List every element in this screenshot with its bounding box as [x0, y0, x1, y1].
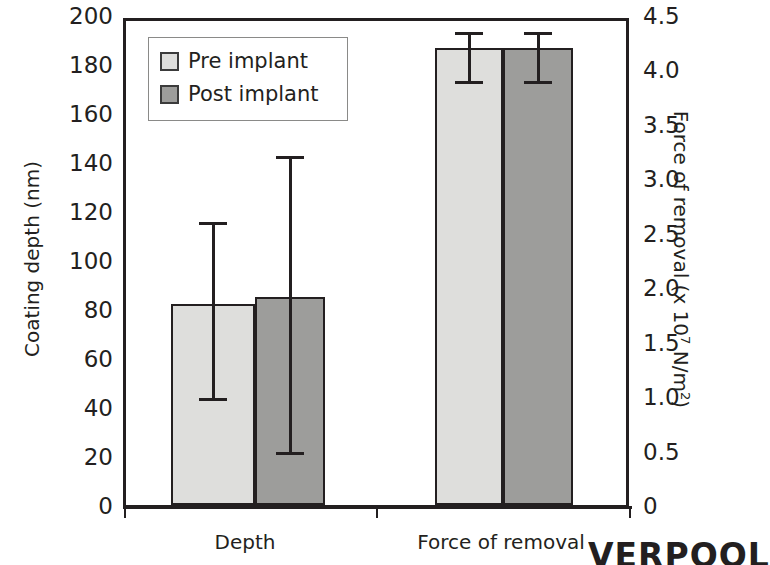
left-axis-ticks: 200180160140120100806040200: [33, 0, 113, 565]
error-bar-cap-upper: [199, 222, 227, 225]
legend-entry-post: Post implant: [160, 78, 347, 111]
category-label-depth: Depth: [168, 530, 322, 554]
right-tick-0.5: 0.5: [643, 441, 723, 464]
right-tick-1.0: 1.0: [643, 386, 723, 409]
error-bar-line: [212, 222, 215, 398]
x-tick-mid: [376, 509, 378, 518]
right-tick-2.0: 2.0: [643, 277, 723, 300]
error-bar-cap-upper: [276, 156, 304, 159]
left-tick-120: 120: [33, 201, 113, 224]
bar-force-of-removal-pre: [435, 48, 503, 505]
x-tick-end: [629, 509, 631, 518]
left-tick-100: 100: [33, 250, 113, 273]
left-tick-0: 0: [33, 495, 113, 518]
error-bar-cap-lower: [276, 452, 304, 455]
error-bar-cap-lower: [455, 81, 483, 84]
legend: Pre implant Post implant: [148, 37, 348, 121]
left-tick-40: 40: [33, 397, 113, 420]
page-artifact-text: VERPOOL: [588, 536, 770, 565]
error-bar-line: [468, 32, 471, 81]
legend-label-post: Post implant: [188, 84, 318, 105]
right-tick-2.5: 2.5: [643, 223, 723, 246]
category-label-force: Force of removal: [392, 530, 610, 554]
left-tick-60: 60: [33, 348, 113, 371]
left-tick-200: 200: [33, 5, 113, 28]
legend-swatch-post-icon: [160, 85, 179, 104]
right-tick-4.0: 4.0: [643, 59, 723, 82]
left-tick-80: 80: [33, 299, 113, 322]
bar-force-of-removal-post: [503, 48, 573, 505]
right-tick-0: 0: [643, 495, 723, 518]
error-bar-cap-lower: [524, 81, 552, 84]
right-tick-3.0: 3.0: [643, 168, 723, 191]
legend-entry-pre: Pre implant: [160, 45, 347, 78]
right-tick-3.5: 3.5: [643, 114, 723, 137]
error-bar-line: [289, 156, 292, 452]
error-bar-cap-upper: [524, 32, 552, 35]
legend-swatch-pre-icon: [160, 52, 179, 71]
error-bar-line: [537, 32, 540, 81]
x-tick-start: [124, 509, 126, 518]
right-axis-ticks: 4.54.03.53.02.52.01.51.00.50: [643, 0, 723, 565]
error-bar-cap-upper: [455, 32, 483, 35]
right-tick-4.5: 4.5: [643, 5, 723, 28]
right-tick-1.5: 1.5: [643, 332, 723, 355]
left-tick-140: 140: [33, 152, 113, 175]
left-tick-160: 160: [33, 103, 113, 126]
legend-label-pre: Pre implant: [188, 51, 308, 72]
left-tick-20: 20: [33, 446, 113, 469]
left-tick-180: 180: [33, 54, 113, 77]
error-bar-cap-lower: [199, 398, 227, 401]
